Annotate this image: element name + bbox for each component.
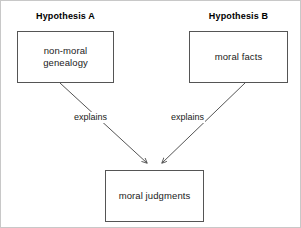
edge-label-explains-left: explains [73,112,108,123]
node-moral-judgments[interactable]: moral judgments [105,170,204,222]
heading-hypothesis-a: Hypothesis A [17,11,114,22]
edge-hypothesis-b-to-moral-judgments [162,83,245,163]
node-label-non-moral-genealogy: non-moral genealogy [43,45,88,69]
node-moral-facts[interactable]: moral facts [189,31,288,83]
heading-hypothesis-b: Hypothesis B [189,11,288,22]
node-non-moral-genealogy[interactable]: non-moral genealogy [17,31,114,83]
edge-label-explains-right: explains [170,112,205,123]
node-label-moral-judgments: moral judgments [119,190,191,202]
edge-hypothesis-a-to-moral-judgments [60,83,147,163]
diagram-canvas: Hypothesis A Hypothesis B non-moral gene… [0,0,301,228]
node-label-moral-facts: moral facts [215,51,263,63]
